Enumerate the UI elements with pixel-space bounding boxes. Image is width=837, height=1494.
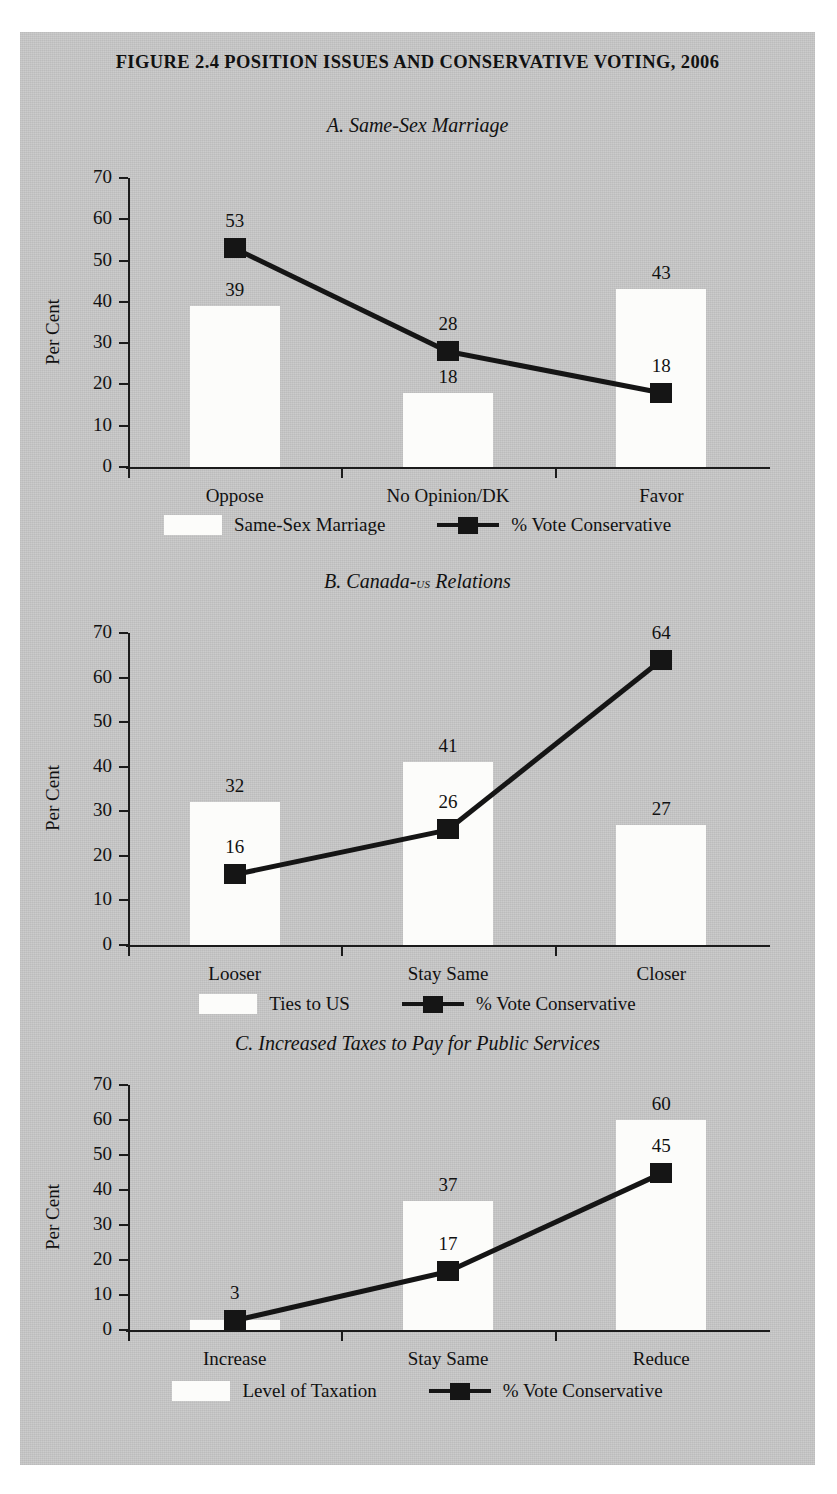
y-axis-tick (119, 1154, 128, 1156)
y-axis-tick-label: 0 (78, 456, 112, 475)
y-axis-tick (119, 218, 128, 220)
line-legend-marker-icon (402, 994, 464, 1014)
x-axis-line (126, 945, 770, 947)
bar (190, 306, 280, 467)
y-axis-tick (119, 1259, 128, 1261)
y-axis-tick-label: 10 (78, 415, 112, 434)
y-axis-tick (119, 721, 128, 723)
panel-c-plot: 706050403020100Per Cent376031745Increase… (128, 1085, 768, 1330)
bar-legend-label: Ties to US (269, 993, 350, 1015)
panel-c: C. Increased Taxes to Pay for Public Ser… (20, 1032, 815, 1465)
bar-legend-label: Same-Sex Marriage (234, 514, 385, 536)
bar (403, 762, 493, 945)
y-axis-tick (119, 1119, 128, 1121)
line-legend-marker-icon (437, 515, 499, 535)
y-axis-tick (119, 425, 128, 427)
bar-value-label: 27 (621, 798, 701, 820)
y-axis-tick-label: 70 (78, 622, 112, 641)
panel-a-plot: 706050403020100Per Cent391843532818Oppos… (128, 178, 768, 467)
y-axis-tick-label: 50 (78, 250, 112, 269)
y-axis-tick (119, 260, 128, 262)
y-axis-tick-label: 0 (78, 1319, 112, 1338)
line-value-label: 18 (621, 355, 701, 377)
bar (403, 393, 493, 467)
y-axis-tick (119, 810, 128, 812)
y-axis-tick (119, 1224, 128, 1226)
line-marker (437, 341, 459, 361)
x-axis-category-label: Oppose (125, 485, 345, 507)
line-marker (650, 1163, 672, 1183)
line-value-label: 17 (408, 1233, 488, 1255)
y-axis-tick-label: 30 (78, 1214, 112, 1233)
panel-b-title-suffix: Relations (430, 570, 511, 592)
panel-b: B. Canada-us Relations 706050403020100Pe… (20, 570, 815, 1030)
x-axis-tick (128, 1330, 130, 1341)
y-axis-tick (119, 855, 128, 857)
panel-b-title-smallcaps: us (416, 573, 430, 592)
panel-b-plot: 706050403020100Per Cent324127162664Loose… (128, 633, 768, 945)
x-axis-tick (128, 467, 130, 478)
line-marker (437, 819, 459, 839)
bar-value-label: 60 (621, 1093, 701, 1115)
line-legend-label: % Vote Conservative (511, 514, 671, 536)
bar (616, 825, 706, 945)
y-axis-tick-label: 40 (78, 756, 112, 775)
y-axis-tick-label: 30 (78, 332, 112, 351)
y-axis-tick-label: 70 (78, 167, 112, 186)
y-axis-tick (119, 1329, 128, 1331)
line-marker (437, 1261, 459, 1281)
y-axis-tick-label: 30 (78, 800, 112, 819)
y-axis-tick (119, 632, 128, 634)
y-axis-tick (119, 177, 128, 179)
x-axis-category-label: Closer (551, 963, 771, 985)
y-axis-tick (119, 342, 128, 344)
line-marker (224, 1310, 246, 1330)
line-value-label: 26 (408, 791, 488, 813)
y-axis-line (128, 1085, 130, 1330)
y-axis-line (128, 633, 130, 945)
line-value-label: 53 (195, 210, 275, 232)
y-axis-tick-label: 40 (78, 291, 112, 310)
x-axis-tick (555, 467, 557, 478)
x-axis-tick (341, 1330, 343, 1341)
line-value-label: 28 (408, 313, 488, 335)
panel-c-title: C. Increased Taxes to Pay for Public Ser… (20, 1032, 815, 1055)
x-axis-category-label: No Opinion/DK (338, 485, 558, 507)
panel-b-legend: Ties to US % Vote Conservative (20, 993, 815, 1015)
y-axis-line (128, 178, 130, 467)
y-axis-title: Per Cent (42, 1184, 64, 1250)
panel-b-title: B. Canada-us Relations (20, 570, 815, 593)
bar-value-label: 39 (195, 279, 275, 301)
y-axis-tick-label: 60 (78, 208, 112, 227)
line-legend-label: % Vote Conservative (503, 1380, 663, 1402)
x-axis-category-label: Looser (125, 963, 345, 985)
panel-a-title: A. Same-Sex Marriage (20, 114, 815, 137)
y-axis-tick (119, 1294, 128, 1296)
y-axis-tick (119, 944, 128, 946)
y-axis-tick-label: 40 (78, 1179, 112, 1198)
line-value-label: 3 (195, 1282, 275, 1304)
y-axis-tick-label: 10 (78, 1284, 112, 1303)
y-axis-title: Per Cent (42, 765, 64, 831)
x-axis-line (126, 1330, 770, 1332)
x-axis-category-label: Reduce (551, 1348, 771, 1370)
panel-c-legend: Level of Taxation % Vote Conservative (20, 1380, 815, 1402)
bar-value-label: 43 (621, 262, 701, 284)
bar-legend-swatch (164, 515, 222, 535)
x-axis-tick (555, 1330, 557, 1341)
y-axis-tick (119, 301, 128, 303)
bar-value-label: 37 (408, 1174, 488, 1196)
x-axis-tick (341, 945, 343, 956)
x-axis-category-label: Stay Same (338, 963, 558, 985)
x-axis-tick (555, 945, 557, 956)
bar-value-label: 41 (408, 735, 488, 757)
y-axis-title: Per Cent (42, 299, 64, 365)
y-axis-tick-label: 20 (78, 373, 112, 392)
y-axis-tick (119, 899, 128, 901)
y-axis-tick (119, 677, 128, 679)
panel-b-title-prefix: B. Canada- (324, 570, 416, 592)
y-axis-tick-label: 20 (78, 845, 112, 864)
figure-title: FIGURE 2.4 POSITION ISSUES AND CONSERVAT… (20, 52, 815, 73)
line-value-label: 64 (621, 622, 701, 644)
line-legend-marker-icon (429, 1381, 491, 1401)
